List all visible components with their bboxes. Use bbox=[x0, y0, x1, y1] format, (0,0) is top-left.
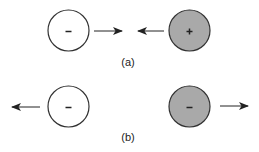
right-particle bbox=[169, 86, 210, 127]
particle-circle bbox=[48, 86, 89, 127]
particle-circle bbox=[169, 86, 210, 127]
diagram-svg: (a)(b) bbox=[0, 0, 259, 152]
panel-a: (a) bbox=[48, 10, 210, 68]
panel-label: (a) bbox=[121, 56, 134, 68]
panel-b: (b) bbox=[12, 86, 248, 143]
particle-circle bbox=[48, 10, 89, 51]
left-particle bbox=[48, 86, 89, 127]
right-particle bbox=[169, 10, 210, 51]
charge-interaction-diagram: (a)(b) bbox=[0, 0, 259, 152]
panel-label: (b) bbox=[121, 131, 134, 143]
left-particle bbox=[48, 10, 89, 51]
